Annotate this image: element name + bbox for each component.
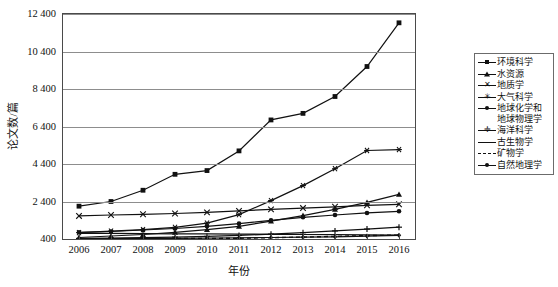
data-point-marker (141, 188, 146, 193)
legend-swatch-icon (477, 160, 497, 171)
legend-item-6[interactable]: 古生物学 (477, 137, 551, 148)
data-point-marker (397, 209, 402, 214)
legend-label: 水资源 (497, 69, 524, 80)
data-point-marker (365, 64, 370, 69)
x-axis-tick-mark (335, 234, 336, 239)
legend-item-1[interactable]: 水资源 (477, 69, 551, 80)
data-point-marker (396, 224, 402, 230)
legend-label: 古生物学 (497, 137, 533, 148)
legend-item-0[interactable]: 环境科学 (477, 57, 551, 68)
legend-swatch-icon: ✳ (477, 92, 497, 103)
legend-item-4[interactable]: 地球化学和 地球物理学 (477, 103, 551, 124)
gridline (63, 52, 415, 53)
data-point-marker (396, 191, 402, 196)
legend-swatch-icon (477, 148, 497, 159)
legend-swatch-icon: ✛ (477, 125, 497, 136)
gridline (63, 14, 415, 15)
data-point-marker (237, 148, 242, 153)
data-point-marker (301, 111, 306, 116)
legend-label: 自然地理学 (497, 160, 542, 171)
data-point-marker (364, 226, 370, 232)
legend-label: 矿物学 (497, 148, 524, 159)
legend-marker-plus-icon: ✛ (484, 126, 491, 134)
legend-label: 环境科学 (497, 57, 533, 68)
x-axis-tick-mark (271, 234, 272, 239)
data-point-marker (397, 20, 402, 25)
gridline (63, 202, 415, 203)
y-axis-tick: 400 (4, 234, 56, 245)
x-axis-tick-mark (175, 234, 176, 239)
legend-marker-square-icon (485, 60, 489, 64)
data-point-marker (365, 211, 370, 216)
legend-marker-triangle-icon (484, 71, 490, 76)
legend-label: 地质学 (497, 80, 524, 91)
legend-label: 大气科学 (497, 92, 533, 103)
data-point-marker (333, 213, 338, 218)
legend-marker-smalldiamond-icon (485, 163, 489, 167)
y-axis-tick: 10 400 (4, 47, 56, 58)
x-axis-tick-mark (367, 234, 368, 239)
legend-marker-asterisk-icon: ✳ (484, 93, 491, 101)
legend-marker-dot-icon (485, 106, 489, 110)
data-point-marker (237, 221, 242, 226)
series-4 (77, 209, 402, 235)
data-point-marker (205, 224, 210, 229)
series-0 (77, 20, 402, 208)
x-axis-tick: 2016 (376, 244, 422, 255)
series-2 (76, 202, 402, 219)
gridline (63, 89, 415, 90)
x-axis-tick-mark (79, 234, 80, 239)
legend-marker-x-icon: ✕ (484, 81, 491, 89)
y-axis-tick: 8 400 (4, 84, 56, 95)
legend-label: 海洋科学 (497, 125, 533, 136)
legend-item-8[interactable]: 自然地理学 (477, 160, 551, 171)
series-line (79, 23, 399, 206)
x-axis-tick-mark (111, 234, 112, 239)
legend-label: 地球化学和 地球物理学 (497, 103, 542, 124)
data-point-marker (301, 215, 306, 220)
data-point-marker (205, 168, 210, 173)
data-point-marker (77, 204, 82, 209)
legend-swatch-icon (477, 103, 497, 114)
data-point-marker (173, 172, 178, 177)
y-axis-tick: 4 400 (4, 159, 56, 170)
x-axis-tick-mark (399, 234, 400, 239)
legend-swatch-icon (477, 69, 497, 80)
y-axis-tick: 2 400 (4, 197, 56, 208)
data-point-marker (141, 228, 146, 233)
chart-figure: 论文数/篇 4002 4004 4006 4008 40010 40012 40… (0, 0, 558, 287)
legend-swatch-icon (477, 137, 497, 148)
legend-item-5[interactable]: ✛海洋科学 (477, 125, 551, 136)
x-axis-tick-mark (143, 234, 144, 239)
data-point-marker (269, 118, 274, 123)
legend-item-3[interactable]: ✳大气科学 (477, 92, 551, 103)
gridline (63, 164, 415, 165)
x-axis-tick-mark (239, 234, 240, 239)
data-point-marker (364, 148, 370, 153)
x-axis-title: 年份 (62, 262, 416, 278)
data-point-marker (173, 226, 178, 231)
data-point-marker (236, 212, 242, 217)
series-line (79, 150, 399, 233)
data-point-marker (332, 166, 338, 171)
data-point-marker (300, 183, 306, 188)
plot-area (62, 13, 416, 240)
x-axis-tick-mark (207, 234, 208, 239)
data-point-marker (333, 94, 338, 99)
legend-swatch-icon: ✕ (477, 80, 497, 91)
legend-item-2[interactable]: ✕地质学 (477, 80, 551, 91)
chart-legend: 环境科学水资源✕地质学✳大气科学地球化学和 地球物理学✛海洋科学古生物学矿物学自… (474, 53, 554, 175)
x-axis-tick-mark (303, 234, 304, 239)
legend-item-7[interactable]: 矿物学 (477, 148, 551, 159)
legend-swatch-icon (477, 57, 497, 68)
y-axis-tick: 12 400 (4, 9, 56, 20)
data-point-marker (269, 218, 274, 223)
gridline (63, 127, 415, 128)
data-point-marker (396, 147, 402, 152)
y-axis-tick: 6 400 (4, 122, 56, 133)
